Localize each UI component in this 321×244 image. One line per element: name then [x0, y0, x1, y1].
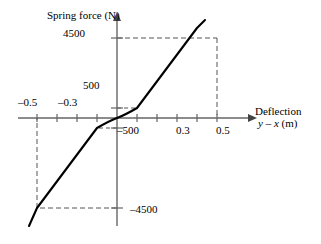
x-tick-label-05: 0.5	[216, 124, 230, 136]
y-tick-label-4500: 4500	[63, 27, 85, 39]
y-axis-title: Spring force (N)	[47, 9, 120, 21]
y-tick-label-500: 500	[83, 79, 100, 91]
x-axis-unit: (m)	[279, 117, 298, 129]
guide-lines-group	[37, 38, 217, 208]
x-tick-label-neg05: –0.5	[18, 96, 37, 108]
x-axis-title-line1: Deflection	[255, 105, 301, 117]
x-axis-minus-sign: –	[263, 117, 274, 129]
x-tick-label-03: 0.3	[176, 124, 190, 136]
spring-force-deflection-chart: Spring force (N) Deflection y – x (m) 45…	[0, 0, 321, 244]
x-tick-label-neg03: –0.3	[58, 96, 77, 108]
x-axis	[18, 114, 257, 122]
y-tick-label-neg4500: –4500	[130, 203, 158, 215]
x-axis-title-line2: y – x (m)	[258, 117, 297, 129]
y-tick-label-neg500: –500	[117, 124, 139, 136]
